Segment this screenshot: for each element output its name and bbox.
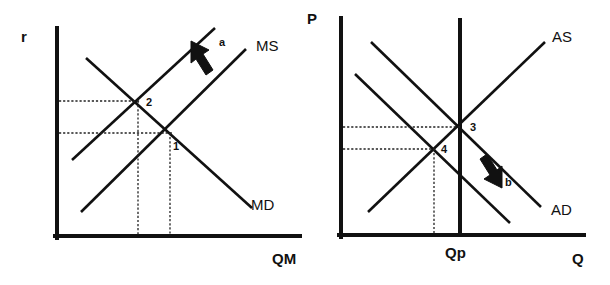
money-demand-label: MD	[251, 196, 274, 213]
right-shift-arrow-label-b: b	[505, 176, 512, 188]
right-x-axis-label: Q	[572, 250, 584, 267]
left-equilibrium-point-2-label: 2	[146, 96, 152, 108]
right-equilibrium-point-3-label: 3	[470, 121, 476, 133]
left-shift-arrow-a	[191, 41, 213, 75]
diagram-canvas: r QM MS MD 2 1 a	[0, 0, 610, 285]
money-supply-label: MS	[256, 37, 279, 54]
right-y-axis-label: P	[307, 10, 317, 27]
money-demand-curve	[86, 58, 252, 208]
left-y-axis-label: r	[21, 28, 27, 45]
potential-output-label: Qp	[445, 244, 466, 261]
aggregate-demand-curve-original	[371, 42, 541, 207]
arrow-a-glyph	[191, 41, 213, 75]
left-shift-arrow-label-a: a	[219, 36, 226, 48]
left-x-axis-label: QM	[272, 250, 296, 267]
economics-diagram-figure: r QM MS MD 2 1 a	[0, 0, 610, 285]
left-equilibrium-point-1-label: 1	[173, 140, 179, 152]
aggregate-demand-label: AD	[551, 201, 572, 218]
aggregate-supply-label: AS	[552, 28, 572, 45]
right-panel-ad-as: P Q Qp AS AD 3 4 b	[307, 10, 584, 267]
left-panel-money-market: r QM MS MD 2 1 a	[21, 28, 300, 267]
right-equilibrium-point-4-label: 4	[441, 143, 448, 155]
